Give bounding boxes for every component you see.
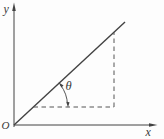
angle-arc-upper-arrowhead-icon (59, 82, 64, 87)
ray-through-origin-line (14, 22, 125, 125)
y-axis-arrowhead-icon (12, 3, 16, 12)
angle-diagram-canvas: y x O θ (0, 0, 164, 139)
angle-diagram-figure: y x O θ (0, 0, 164, 139)
y-axis-label: y (3, 2, 10, 16)
x-axis-label: x (145, 125, 152, 139)
angle-theta-label: θ (66, 79, 72, 93)
origin-label: O (2, 119, 10, 131)
